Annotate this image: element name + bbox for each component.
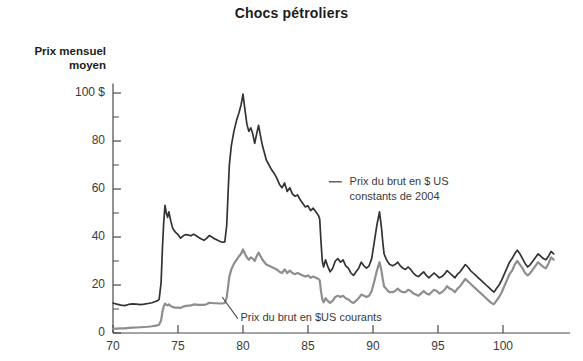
x-axis-label-75: 75	[158, 339, 198, 353]
annotation-current-dollars-leader	[222, 297, 238, 319]
x-axis-label-100: 100	[483, 339, 523, 353]
y-axis-label-60: 60	[45, 181, 105, 195]
annotation-constant-dollars: Prix du brut en $ US constants de 2004	[350, 174, 449, 204]
chart-figure: Chocs pétroliers Prix mensuel moyen 0204…	[0, 0, 583, 361]
series-line-constant_2004_usd	[113, 94, 554, 305]
x-axis-label-90: 90	[353, 339, 393, 353]
annotation-constant-dollars-line2: constants de 2004	[350, 189, 449, 204]
x-axis-label-70: 70	[93, 339, 133, 353]
x-axis-label-80: 80	[223, 339, 263, 353]
y-axis-label-20: 20	[45, 277, 105, 291]
x-axis-label-85: 85	[288, 339, 328, 353]
y-axis-label-40: 40	[45, 229, 105, 243]
x-axis-label-95: 95	[418, 339, 458, 353]
annotation-current-dollars: Prix du brut en $US courants	[240, 310, 381, 324]
annotation-constant-dollars-line1: Prix du brut en $ US	[350, 174, 449, 189]
y-axis-label-0: 0	[45, 325, 105, 339]
y-axis-label-80: 80	[45, 133, 105, 147]
y-axis-label-100: 100 $	[45, 85, 105, 99]
